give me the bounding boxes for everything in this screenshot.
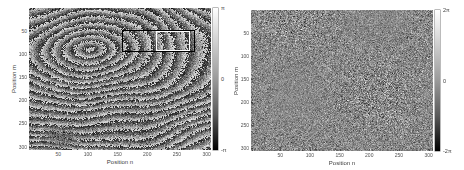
x-axis-label: Position n xyxy=(329,160,355,166)
colorbar-tick-label: 0 xyxy=(443,78,446,84)
x-tick-label: 300 xyxy=(424,153,432,158)
x-tick-label: 50 xyxy=(278,153,284,158)
y-tick-label: 50 xyxy=(243,30,249,35)
y-tick-label: 150 xyxy=(241,76,249,81)
x-tick-mark xyxy=(369,149,370,151)
x-tick-label: 150 xyxy=(335,153,343,158)
x-tick-label: 200 xyxy=(365,153,373,158)
panel-residual-phase: Position n Position m 501001502002503005… xyxy=(0,0,464,170)
x-tick-label: 250 xyxy=(395,153,403,158)
colorbar-tick-label: 2π xyxy=(443,7,450,13)
x-tick-mark xyxy=(280,149,281,151)
residual-phase-raster xyxy=(251,10,433,151)
x-tick-label: 100 xyxy=(306,153,314,158)
y-tick-mark xyxy=(251,56,253,57)
y-tick-mark xyxy=(251,79,253,80)
y-tick-label: 200 xyxy=(241,99,249,104)
x-tick-mark xyxy=(429,149,430,151)
y-tick-mark xyxy=(251,148,253,149)
y-axis-label: Position m xyxy=(233,66,239,94)
y-tick-label: 250 xyxy=(241,122,249,127)
x-tick-mark xyxy=(310,149,311,151)
y-tick-mark xyxy=(251,102,253,103)
y-tick-mark xyxy=(251,125,253,126)
y-tick-label: 300 xyxy=(241,145,249,150)
x-tick-mark xyxy=(399,149,400,151)
x-tick-mark xyxy=(340,149,341,151)
y-tick-label: 100 xyxy=(241,53,249,58)
colorbar-residual-phase xyxy=(435,10,440,151)
y-tick-mark xyxy=(251,33,253,34)
colorbar-tick-label: -2π xyxy=(443,148,452,154)
residual-phase-image xyxy=(251,10,433,151)
